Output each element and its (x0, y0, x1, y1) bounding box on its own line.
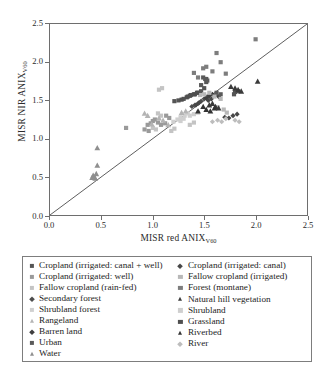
legend-item[interactable]: Shrubland (176, 305, 307, 316)
legend-item[interactable]: Fallow cropland (irrigated) (176, 271, 307, 282)
x-tick-label-5: 2.5 (293, 221, 323, 230)
data-point (225, 111, 229, 115)
data-point (210, 69, 214, 73)
legend-marker-square-icon (176, 283, 185, 292)
figure-scatter-anix: MISR NIR ANIXV60 MISR red ANIXV60 0.00.5… (0, 0, 334, 374)
data-point (172, 127, 176, 131)
data-point (219, 97, 223, 101)
y-tick-label-3: 1.5 (15, 96, 43, 105)
data-point (192, 120, 196, 124)
legend-item[interactable]: Shrubland forest (27, 304, 176, 315)
data-point (212, 95, 216, 99)
data-point (204, 65, 208, 69)
legend-marker-triangle-icon (176, 295, 185, 304)
legend-item[interactable]: Secondary forest (27, 293, 176, 304)
legend-box: Cropland (irrigated: canal + well)Cropla… (22, 256, 312, 362)
legend-item[interactable]: Grassland (176, 316, 307, 327)
x-tick-label-1: 0.5 (86, 221, 116, 230)
x-axis-title: MISR red ANIXV60 (49, 233, 308, 244)
x-tick-label-4: 2.0 (241, 221, 271, 230)
legend-marker-diamond-icon (176, 339, 185, 348)
data-point (167, 116, 171, 120)
series-16 (210, 116, 242, 124)
data-point (178, 119, 182, 123)
legend-label: Cropland (irrigated: well) (39, 272, 133, 281)
y-tick-label-2: 1.0 (15, 134, 43, 143)
series-8 (89, 145, 100, 181)
legend-marker-square-icon (176, 317, 185, 326)
x-tick-label-0: 0.0 (34, 221, 64, 230)
scatter-canvas (50, 24, 307, 215)
legend-item[interactable]: Water (27, 348, 176, 359)
data-point (228, 84, 234, 89)
legend-item[interactable]: Cropland (irrigated: canal + well) (27, 260, 176, 271)
data-point (200, 104, 206, 109)
data-point (192, 112, 196, 116)
data-point (142, 127, 146, 131)
data-point (188, 94, 192, 98)
legend-item[interactable]: Cropland (irrigated: well) (27, 271, 176, 282)
data-point (196, 75, 200, 79)
legend-item[interactable]: River (176, 338, 307, 349)
data-point (93, 171, 99, 176)
legend-item[interactable]: Riverbed (176, 327, 307, 338)
data-point (224, 72, 228, 76)
data-point (147, 129, 151, 133)
data-point (171, 120, 175, 124)
legend-item[interactable]: Natural hill vegetation (176, 294, 307, 305)
data-point (210, 119, 215, 124)
data-point (219, 92, 223, 96)
data-point (254, 37, 258, 41)
y-axis-title-text: MISR NIR ANIX (17, 72, 27, 141)
data-point (214, 91, 218, 95)
data-point (94, 145, 100, 150)
legend-marker-square-icon (176, 306, 185, 315)
legend-marker-triangle-icon (27, 316, 36, 325)
data-point (172, 99, 176, 103)
legend-marker-diamond-icon (176, 261, 185, 270)
legend-label: Grassland (188, 317, 225, 326)
legend-label: Barren land (39, 327, 82, 336)
y-tick-label-5: 2.5 (15, 19, 43, 28)
legend-marker-diamond-icon (27, 327, 36, 336)
legend-marker-triangle-icon (27, 349, 36, 358)
legend-label: Water (39, 349, 61, 358)
y-tick-label-0: 0.0 (15, 212, 43, 221)
data-point (202, 92, 206, 96)
legend-marker-square-icon (27, 338, 36, 347)
data-point (255, 78, 261, 83)
legend-column-0: Cropland (irrigated: canal + well)Cropla… (27, 260, 176, 359)
legend-marker-diamond-icon (27, 294, 36, 303)
legend-label: Shrubland forest (39, 305, 100, 314)
legend-label: River (188, 339, 208, 348)
legend-label: Riverbed (188, 328, 222, 337)
legend-column-1: Cropland (irrigated: canal)Fallow cropla… (176, 260, 307, 359)
legend-label: Forest (montane) (188, 283, 251, 292)
data-point (219, 60, 223, 64)
data-points-group (89, 37, 260, 181)
legend-item[interactable]: Barren land (27, 326, 176, 337)
x-tick-label-3: 1.5 (189, 221, 219, 230)
legend-item[interactable]: Cropland (irrigated: canal) (176, 260, 307, 271)
data-point (180, 98, 184, 102)
data-point (188, 123, 192, 127)
legend-marker-triangle-icon (176, 328, 185, 337)
legend-label: Cropland (irrigated: canal) (188, 261, 286, 270)
data-point (154, 127, 158, 131)
data-point (205, 78, 209, 82)
data-point (159, 123, 163, 127)
legend-item[interactable]: Forest (montane) (176, 282, 307, 293)
y-tick-label-4: 2.0 (15, 57, 43, 66)
legend-item[interactable]: Urban (27, 337, 176, 348)
data-point (232, 92, 236, 96)
legend-item[interactable]: Fallow cropland (rain-fed) (27, 282, 176, 293)
data-point (124, 126, 128, 130)
legend-marker-square-icon (27, 272, 36, 281)
data-point (230, 113, 235, 118)
x-axis-title-text: MISR red ANIX (140, 233, 205, 243)
legend-marker-square-icon (27, 283, 36, 292)
x-axis-title-subscript: V60 (206, 237, 217, 244)
legend-item[interactable]: Rangeland (27, 315, 176, 326)
data-point (183, 108, 189, 113)
data-point (199, 83, 203, 87)
